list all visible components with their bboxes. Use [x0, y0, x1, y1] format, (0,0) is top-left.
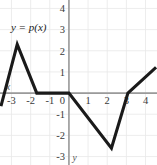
y-tick-label: -2 — [56, 130, 65, 141]
y-tick-label: -1 — [56, 109, 65, 120]
x-tick-label: -3 — [7, 95, 16, 106]
x-tick-label: 2 — [105, 95, 110, 106]
graph-figure: -3-2-101234 -3-2-11234 x y y = p(x) — [0, 0, 157, 165]
y-tick-label: -3 — [56, 151, 65, 162]
y-tick-label: 3 — [60, 24, 65, 35]
function-plot: -3-2-101234 -3-2-11234 x y y = p(x) — [0, 0, 157, 165]
x-tick-label: 4 — [143, 95, 149, 106]
y-tick-label: 1 — [60, 67, 65, 78]
x-tick-label: -2 — [26, 95, 35, 106]
x-tick-label: 1 — [85, 95, 90, 106]
y-tick-label: 4 — [60, 3, 66, 14]
y-tick-label: 2 — [60, 46, 65, 57]
x-tick-label: -1 — [45, 95, 54, 106]
x-tick-label: 0 — [60, 95, 65, 106]
function-annotation-label: y = p(x) — [10, 21, 47, 34]
y-axis-label: y — [71, 153, 77, 163]
